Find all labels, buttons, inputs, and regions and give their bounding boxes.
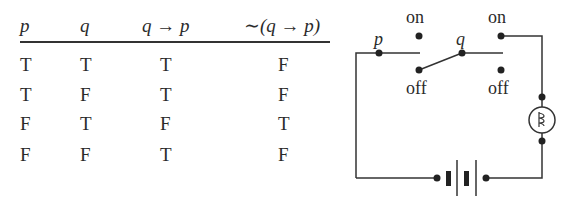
switch-q-label: q [456,29,465,49]
switch-p-label: p [372,29,383,49]
p-on-terminal [416,33,423,40]
p-off-label: off [406,78,427,98]
q-on-label: on [488,7,506,27]
q-on-terminal [498,33,505,40]
p-pivot-dot [376,50,383,57]
q-off-label: off [488,78,509,98]
q-off-terminal [498,67,505,74]
p-off-terminal [416,67,423,74]
p-on-label: on [406,7,424,27]
q-pivot-dot [459,50,466,57]
circuit-diagram: p q on off on off [0,0,578,197]
